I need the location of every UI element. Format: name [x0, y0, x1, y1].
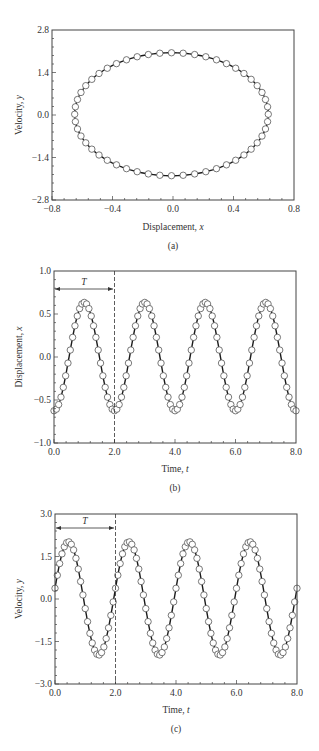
data-point-marker [259, 89, 265, 95]
data-point-marker [170, 599, 176, 605]
x-axis-label: Displacement, x [142, 222, 204, 232]
data-point-marker [191, 547, 197, 553]
x-tick-label: 6.0 [230, 447, 242, 457]
data-point-marker [100, 373, 106, 379]
y-axis-label: Displacement, x [14, 326, 24, 388]
data-point-marker [180, 50, 186, 56]
y-tick-label: −1.5 [35, 637, 52, 647]
data-point-marker [113, 162, 119, 168]
data-point-marker [198, 578, 204, 584]
data-point-marker [162, 384, 168, 390]
data-point-marker [83, 140, 89, 146]
data-point-marker [55, 401, 61, 407]
data-point-marker [89, 146, 95, 152]
data-point-marker [87, 630, 93, 636]
data-point-marker [264, 118, 270, 124]
data-point-marker [105, 625, 111, 631]
data-point-marker [203, 54, 209, 60]
data-point-marker [131, 547, 137, 553]
data-point-marker [90, 323, 96, 329]
data-point-marker [121, 384, 127, 390]
panel-c-velocity-plot: T 3.0 1.5 0.0 −1.5 −3.0 0.0 2.0 4.0 6.0 … [14, 509, 303, 735]
data-point-marker [196, 566, 202, 572]
data-point-marker [89, 76, 95, 82]
y-tick-label: 1.5 [40, 552, 52, 562]
arrow-head-right-icon [108, 287, 113, 291]
data-point-marker [191, 51, 197, 57]
period-label: T [82, 516, 88, 526]
data-point-marker [168, 612, 174, 618]
data-point-marker [145, 171, 151, 177]
data-line [75, 53, 269, 176]
data-point-marker [130, 334, 136, 340]
x-tick-label: 0.4 [228, 204, 240, 214]
data-point-marker [222, 644, 228, 650]
data-point-marker [224, 635, 230, 641]
data-point-marker [175, 572, 181, 578]
data-point-marker [254, 140, 260, 146]
data-point-marker [104, 394, 110, 400]
y-tick-label: −0.5 [34, 395, 51, 405]
data-point-marker [246, 360, 252, 366]
figure-canvas: 2.8 1.4 0.0 −1.4 −2.8 −0.8 −0.4 0.0 0.4 … [0, 0, 319, 751]
data-point-marker [256, 313, 262, 319]
panel-caption: (b) [169, 483, 180, 494]
panel-caption: (a) [168, 241, 179, 252]
data-point-marker [194, 555, 200, 561]
data-point-marker [134, 169, 140, 175]
data-point-marker [180, 551, 186, 557]
data-point-marker [213, 57, 219, 63]
y-tick-label: 2.8 [37, 25, 49, 35]
plot-area [71, 50, 271, 179]
data-point-marker [93, 334, 99, 340]
data-point-marker [125, 360, 131, 366]
data-point-marker [262, 96, 268, 102]
data-point-marker [73, 555, 79, 561]
data-point-marker [74, 313, 80, 319]
x-tick-label: 2.0 [109, 447, 121, 457]
data-point-marker [264, 605, 270, 611]
data-point-marker [78, 133, 84, 139]
data-point-marker [223, 60, 229, 66]
data-point-marker [264, 104, 270, 110]
data-point-marker [75, 566, 81, 572]
data-point-marker [145, 618, 151, 624]
x-tick-label: 8.0 [291, 688, 303, 698]
arrow-head-left-icon [55, 287, 60, 291]
data-point-marker [257, 566, 263, 572]
data-point-marker [133, 555, 139, 561]
data-point-marker [272, 323, 278, 329]
data-point-marker [108, 612, 114, 618]
data-point-marker [147, 630, 153, 636]
data-point-marker [95, 347, 101, 353]
data-point-marker [259, 133, 265, 139]
data-point-marker [233, 585, 239, 591]
data-point-marker [157, 172, 163, 178]
data-point-marker [168, 50, 174, 56]
data-point-marker [210, 640, 216, 646]
data-point-marker [62, 373, 68, 379]
data-point-marker [223, 384, 229, 390]
data-point-marker [242, 384, 248, 390]
x-tick-label: 0.0 [48, 447, 60, 457]
data-point-marker [165, 394, 171, 400]
data-point-marker [241, 70, 247, 76]
data-point-marker [251, 334, 257, 340]
data-point-marker [203, 169, 209, 175]
data-point-marker [253, 323, 259, 329]
data-point-marker [60, 384, 66, 390]
data-point-marker [160, 373, 166, 379]
x-tick-label: −0.8 [43, 204, 60, 214]
data-point-marker [188, 347, 194, 353]
data-point-marker [268, 630, 274, 636]
data-point-marker [166, 625, 172, 631]
data-point-marker [238, 560, 244, 566]
data-point-marker [117, 560, 123, 566]
plot-frame [55, 514, 297, 684]
data-point-marker [96, 70, 102, 76]
data-point-marker [190, 334, 196, 340]
data-point-marker [123, 165, 129, 171]
data-point-marker [271, 640, 277, 646]
y-tick-label: 0.0 [40, 594, 52, 604]
data-point-marker [286, 394, 292, 400]
